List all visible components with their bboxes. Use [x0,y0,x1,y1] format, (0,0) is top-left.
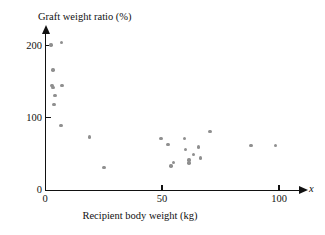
data-point [88,135,91,138]
data-point [199,156,202,159]
x-axis-variable-symbol: x [309,183,314,194]
data-point [49,43,52,46]
y-axis-arrow-icon [42,25,50,34]
x-tick-mark [278,185,279,191]
y-tick-label: 200 [12,40,42,51]
x-tick-label: 0 [30,193,60,204]
plot-area: Graft weight ratio (%) Recipient body we… [0,0,325,235]
scatter-plot-figure: Graft weight ratio (%) Recipient body we… [0,0,325,235]
y-tick-label: 100 [12,112,42,123]
y-axis-line [45,33,46,191]
y-tick-mark [45,117,51,118]
x-tick-mark [161,185,162,191]
x-axis-line [45,190,300,191]
data-point [192,153,195,156]
data-point [197,145,200,148]
data-point [52,103,55,106]
data-point [53,94,56,97]
data-point [159,137,162,140]
data-point [166,143,169,146]
data-point [208,130,211,133]
data-point [183,137,186,140]
x-axis-arrow-icon [299,186,308,194]
data-point [60,41,63,44]
data-point [51,68,54,71]
data-point [60,84,63,87]
x-tick-label: 100 [264,193,294,204]
data-point [249,144,252,147]
x-tick-label: 50 [147,193,177,204]
data-point [187,158,190,161]
data-point [184,148,187,151]
data-point [51,86,54,89]
data-point [172,161,175,164]
y-axis-title: Graft weight ratio (%) [38,11,132,22]
data-point [59,124,62,127]
data-point [274,144,277,147]
data-point [169,164,172,167]
data-point [102,166,105,169]
x-axis-title: Recipient body weight (kg) [0,210,280,221]
